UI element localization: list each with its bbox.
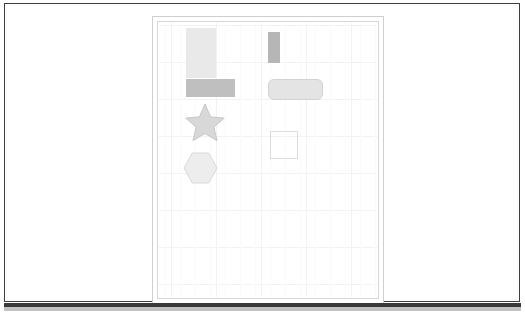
canvas-area[interactable] bbox=[159, 23, 377, 297]
window-frame bbox=[4, 3, 520, 302]
shape-square-outline[interactable] bbox=[270, 131, 298, 159]
shape-star[interactable] bbox=[185, 103, 225, 142]
shape-bar-vertical[interactable] bbox=[268, 32, 280, 63]
shape-rectangle-wide[interactable] bbox=[186, 79, 235, 97]
shape-rounded-rectangle[interactable] bbox=[268, 79, 323, 100]
document-page[interactable] bbox=[152, 16, 384, 304]
window-bottom-band-shade bbox=[4, 307, 521, 311]
shape-hexagon[interactable] bbox=[183, 152, 218, 184]
shape-rectangle-tall[interactable] bbox=[186, 28, 216, 78]
application-window bbox=[0, 0, 525, 317]
